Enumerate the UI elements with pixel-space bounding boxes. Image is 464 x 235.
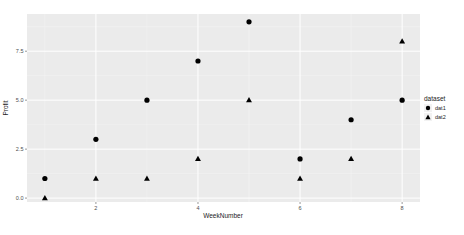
point-dat1: [195, 58, 200, 63]
legend: dataset dat1 dat2: [424, 95, 446, 121]
point-dat1: [400, 98, 405, 103]
y-axis-title: Profit: [2, 100, 9, 115]
legend-title: dataset: [424, 95, 446, 102]
x-axis-ticks: 2468: [94, 202, 403, 211]
y-tick-label: 0.0: [16, 195, 24, 201]
point-dat1: [42, 176, 47, 181]
point-dat1: [297, 156, 302, 161]
y-tick-label: 5.0: [16, 97, 24, 103]
legend-label-dat2: dat2: [435, 114, 446, 120]
y-tick-label: 7.5: [16, 48, 24, 54]
legend-circle-icon: [426, 106, 430, 110]
point-dat1: [246, 19, 251, 24]
x-axis-title: WeekNumber: [203, 212, 243, 219]
x-tick-label: 6: [299, 205, 302, 211]
y-tick-label: 2.5: [16, 146, 24, 152]
point-dat1: [348, 117, 353, 122]
point-dat1: [93, 137, 98, 142]
x-tick-label: 8: [401, 205, 404, 211]
legend-label-dat1: dat1: [435, 105, 446, 111]
point-dat1: [144, 98, 149, 103]
x-tick-label: 2: [94, 205, 97, 211]
y-axis-ticks: 0.02.55.07.5: [16, 48, 27, 201]
scatter-chart: 0.02.55.07.5 2468 WeekNumber Profit data…: [0, 0, 464, 235]
x-tick-label: 4: [196, 205, 199, 211]
